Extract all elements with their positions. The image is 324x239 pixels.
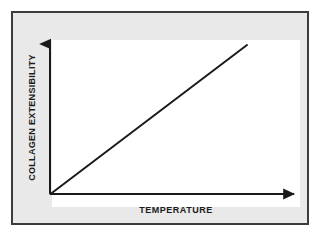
x-axis-title-text: TEMPERATURE <box>139 205 212 215</box>
y-axis-title-text: COLLAGEN EXTENSIBILITY <box>28 54 37 181</box>
x-axis-title: TEMPERATURE <box>52 199 300 217</box>
figure-root: COLLAGEN EXTENSIBILITY TEMPERATURE <box>0 0 324 239</box>
data-series-line <box>51 45 248 194</box>
plot-svg <box>13 13 311 227</box>
y-axis-title: COLLAGEN EXTENSIBILITY <box>24 37 40 197</box>
figure-frame: COLLAGEN EXTENSIBILITY TEMPERATURE <box>11 11 309 225</box>
